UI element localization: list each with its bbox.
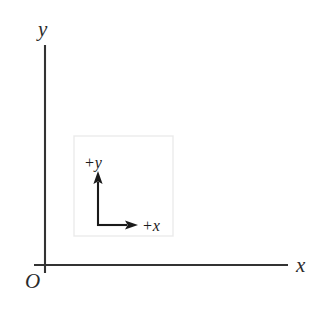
figure-canvas: y x O +y +x [0, 0, 318, 311]
y-axis-label: y [36, 17, 48, 41]
origin-label: O [25, 269, 40, 293]
inset-plus-y-label: +y [84, 154, 103, 172]
inset-plus-x-label: +x [142, 217, 160, 234]
x-axis-label: x [295, 253, 306, 277]
coordinate-axes-figure: y x O +y +x [0, 0, 318, 311]
